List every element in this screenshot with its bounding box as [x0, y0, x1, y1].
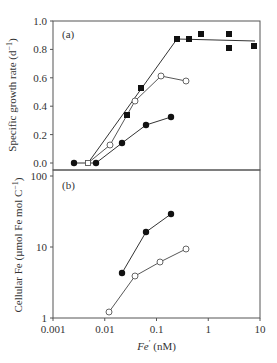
panel-b-frame: [53, 170, 260, 318]
marker-filled-circle: [168, 114, 174, 120]
panel-b: 1 10 100 0.001 0.01 0.1 1 10 Fe′ (nM) (b…: [11, 170, 266, 353]
panel-a-label: (a): [62, 28, 75, 41]
ytick-b-2: 100: [31, 170, 48, 182]
marker-filled-circle: [119, 140, 125, 146]
marker-open-circle: [157, 259, 163, 265]
ytick-a-3: 0.6: [33, 72, 47, 84]
series-filled-circles-b: [119, 211, 174, 276]
ytick-b-1: 10: [36, 241, 48, 253]
ytick-a-0: 0.0: [33, 157, 47, 169]
xtick-0: 0.001: [41, 323, 66, 335]
marker-filled-circle: [119, 270, 125, 276]
marker-open-circle: [107, 142, 113, 148]
series-filled-squares: [124, 31, 257, 118]
figure: 0.0 0.2 0.4 0.6 0.8 1.0 (a) Specific gro…: [0, 0, 277, 363]
marker-square: [198, 31, 204, 37]
line-open-circles-b: [109, 249, 186, 312]
marker-open-circle: [183, 78, 189, 84]
series-open-circles-b: [106, 246, 189, 315]
marker-square: [226, 31, 232, 37]
marker-square: [174, 36, 180, 42]
marker-filled-circle: [143, 122, 149, 128]
marker-filled-circle: [143, 229, 149, 235]
marker-square: [226, 45, 232, 51]
ytick-a-4: 0.8: [33, 43, 47, 55]
xlabel: Fe′ (nM): [136, 339, 176, 353]
panel-b-label: (b): [62, 179, 75, 192]
panel-a: 0.0 0.2 0.4 0.6 0.8 1.0 (a) Specific gro…: [5, 15, 260, 170]
marker-square: [138, 85, 144, 91]
series-open-circles-a: [86, 73, 190, 166]
marker-open-circle: [183, 246, 189, 252]
panel-a-frame: [53, 21, 260, 170]
ylabel-b: Cellular Fe (µmol Fe mol C−1): [11, 177, 25, 312]
line-filled-circles-b: [122, 214, 171, 273]
xtick-4: 10: [255, 323, 267, 335]
marker-open-circle: [132, 98, 138, 104]
xtick-2: 0.1: [150, 323, 164, 335]
ytick-a-1: 0.2: [33, 129, 47, 141]
ylabel-a: Specific growth rate (d−1): [5, 38, 19, 152]
xtick-3: 1: [206, 323, 212, 335]
ytick-a-2: 0.4: [33, 100, 47, 112]
marker-open: [86, 161, 91, 166]
marker-filled-circle: [93, 160, 99, 166]
marker-open-circle: [106, 309, 112, 315]
xtick-1: 0.01: [95, 323, 114, 335]
series-filled-circles-a: [71, 114, 174, 166]
ytick-a-5: 1.0: [33, 15, 47, 27]
marker-filled-circle: [71, 160, 77, 166]
marker-square: [251, 43, 257, 49]
marker-open-circle: [132, 273, 138, 279]
marker-square: [124, 112, 130, 118]
marker-open-circle: [158, 73, 164, 79]
marker-filled-circle: [168, 211, 174, 217]
marker-square: [186, 36, 192, 42]
